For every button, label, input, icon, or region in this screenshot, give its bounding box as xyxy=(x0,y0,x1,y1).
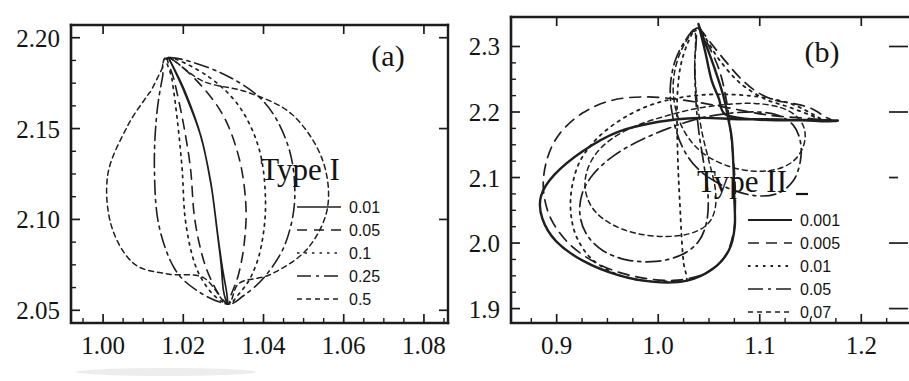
xtick-label: 1.04 xyxy=(242,332,286,359)
ytick-label: 2.05 xyxy=(16,297,60,324)
panel-label: (a) xyxy=(371,39,404,73)
legend-label-0-01: 0.01 xyxy=(800,258,831,275)
xtick-label: 1.00 xyxy=(81,332,125,359)
xtick-label: 1.0 xyxy=(643,332,674,359)
ytick-label: 2.10 xyxy=(16,206,60,233)
legend-label-0-07: 0.07 xyxy=(800,304,831,321)
scan-artifact xyxy=(76,368,256,376)
ytick-label: 2.20 xyxy=(16,25,60,52)
xtick-label: 1.08 xyxy=(402,332,446,359)
hysteresis-figure: 1.001.021.041.061.082.052.102.152.20(a)T… xyxy=(0,0,909,381)
ytick-label: 2.1 xyxy=(469,165,500,192)
panel-label: (b) xyxy=(805,35,840,69)
legend-label-0-01: 0.01 xyxy=(349,199,380,216)
ytick-label: 2.3 xyxy=(469,33,500,60)
legend-label-0-001: 0.001 xyxy=(800,212,840,229)
legend-title: Type I xyxy=(260,152,340,187)
ytick-label: 1.9 xyxy=(469,296,500,323)
figure-root: 1.001.021.041.061.082.052.102.152.20(a)T… xyxy=(0,0,909,381)
legend-label-0-05: 0.05 xyxy=(800,281,831,298)
legend-label-0-25: 0.25 xyxy=(349,268,380,285)
legend-label-0-05: 0.05 xyxy=(349,222,380,239)
ytick-label: 2.0 xyxy=(469,230,500,257)
ytick-label: 2.2 xyxy=(469,99,500,126)
xtick-label: 1.06 xyxy=(322,332,366,359)
legend-label-0-5: 0.5 xyxy=(349,291,371,308)
legend-label-0-1: 0.1 xyxy=(349,245,371,262)
ytick-label: 2.15 xyxy=(16,116,60,143)
xtick-label: 1.1 xyxy=(744,332,775,359)
xtick-label: 0.9 xyxy=(541,332,572,359)
xtick-label: 1.2 xyxy=(846,332,877,359)
legend-label-0-005: 0.005 xyxy=(800,235,840,252)
legend-title: Type II xyxy=(697,164,787,199)
xtick-label: 1.02 xyxy=(161,332,205,359)
